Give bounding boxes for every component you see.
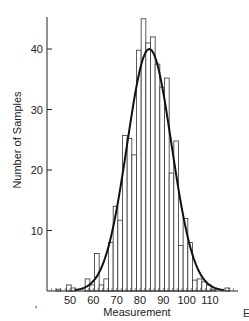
histogram-bar xyxy=(132,155,137,291)
histogram-bar xyxy=(127,139,132,291)
histogram-bar xyxy=(160,87,165,291)
histogram-bar xyxy=(197,279,202,291)
y-tick-label: 10 xyxy=(31,225,43,237)
x-tick-label: 110 xyxy=(201,294,219,306)
y-tick-label: 30 xyxy=(31,104,43,116)
x-tick-label: 90 xyxy=(157,294,169,306)
x-tick-label: 50 xyxy=(64,294,76,306)
histogram-bar xyxy=(146,43,151,291)
stray-mark-left: ' xyxy=(35,304,37,316)
histogram-bar xyxy=(118,220,123,291)
histogram-bar xyxy=(90,285,95,291)
clipped-label-right: E xyxy=(243,307,249,319)
y-axis-title: Number of Samples xyxy=(11,91,23,189)
histogram-bar xyxy=(169,173,174,291)
histogram-bar xyxy=(202,282,207,291)
histogram-chart: 10203040 5060708090100110 Measurement Nu… xyxy=(0,0,249,321)
histogram-bar xyxy=(67,285,72,291)
x-tick-label: 80 xyxy=(134,294,146,306)
histogram-bar xyxy=(108,243,113,291)
histogram-bar xyxy=(104,279,109,291)
y-tick-label: 20 xyxy=(31,164,43,176)
histogram-bar xyxy=(192,280,197,291)
x-tick-label: 100 xyxy=(177,294,195,306)
x-axis-title: Measurement xyxy=(103,306,170,318)
histogram-bar xyxy=(99,285,104,291)
histogram-bar xyxy=(178,246,183,291)
histogram-bar xyxy=(155,64,160,291)
histogram-bar xyxy=(150,37,155,291)
y-tick-label: 40 xyxy=(31,43,43,55)
x-tick-label: 70 xyxy=(111,294,123,306)
x-tick-label: 60 xyxy=(87,294,99,306)
y-axis-ticks: 10203040 xyxy=(31,43,52,237)
